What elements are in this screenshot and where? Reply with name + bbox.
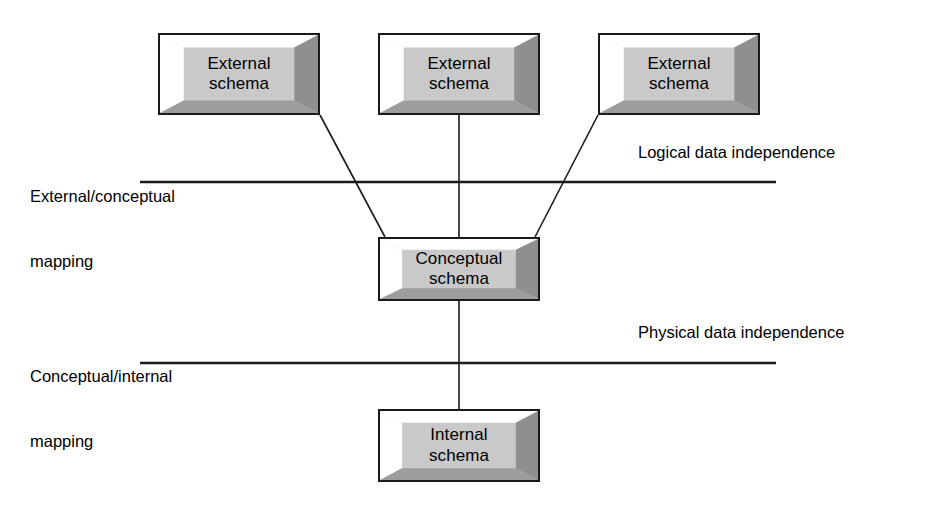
connector-external3-conceptual bbox=[535, 115, 598, 237]
external-schema-box-2[interactable]: External schema bbox=[378, 33, 540, 115]
conceptual-schema-box[interactable]: Conceptual schema bbox=[378, 237, 540, 301]
external-schema-box-3[interactable]: External schema bbox=[598, 33, 760, 115]
diagram-canvas: External schema External schema bbox=[0, 0, 932, 525]
external-schema-box-1[interactable]: External schema bbox=[158, 33, 320, 115]
box-bevel bbox=[380, 35, 538, 113]
connector-external1-conceptual bbox=[320, 115, 385, 237]
box-bevel bbox=[380, 411, 538, 480]
logical-data-independence-caption: Logical data independence bbox=[638, 142, 835, 164]
box-bevel bbox=[380, 239, 538, 299]
conceptual-internal-mapping-caption: Conceptual/internal mapping bbox=[30, 322, 172, 496]
caption-line2: mapping bbox=[30, 251, 175, 273]
caption-line1: Conceptual/internal bbox=[30, 366, 172, 388]
caption-line2: mapping bbox=[30, 431, 172, 453]
box-bevel bbox=[600, 35, 758, 113]
physical-data-independence-caption: Physical data independence bbox=[638, 322, 844, 344]
box-bevel bbox=[160, 35, 318, 113]
internal-schema-box[interactable]: Internal schema bbox=[378, 409, 540, 482]
external-conceptual-mapping-caption: External/conceptual mapping bbox=[30, 142, 175, 316]
caption-line1: External/conceptual bbox=[30, 186, 175, 208]
